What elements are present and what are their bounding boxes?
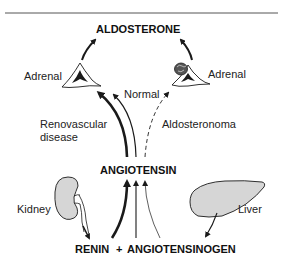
adrenal-left-label: Adrenal	[24, 70, 62, 82]
arrow-left-adrenal-to-aldosterone	[82, 40, 95, 60]
kidney-label: Kidney	[17, 203, 51, 215]
angiotensinogen-label: ANGIOTENSINOGEN	[127, 243, 236, 255]
arrow-right-adrenal-to-aldosterone	[181, 40, 192, 60]
arrow-renin-to-angiotensin-thick	[112, 182, 127, 238]
aldosteronoma-label: Aldosteronoma	[162, 118, 236, 130]
kidney-icon	[55, 177, 89, 238]
plus-sign: +	[116, 243, 122, 255]
renovascular-label-line1: Renovascular	[40, 118, 107, 130]
angiotensin-label: ANGIOTENSIN	[100, 164, 176, 176]
liver-label: Liver	[238, 203, 262, 215]
aldosterone-label: ALDOSTERONE	[96, 23, 180, 35]
adrenal-right-label: Adrenal	[208, 68, 246, 80]
arrow-normal-pathway	[114, 95, 136, 157]
adrenal-gland-icon	[62, 63, 101, 88]
adrenal-gland-with-tumor-icon	[172, 63, 210, 86]
normal-pathway-label: Normal	[124, 88, 159, 100]
renovascular-label-line2: disease	[40, 131, 78, 143]
renin-label: RENIN	[75, 243, 109, 255]
arrow-renin-to-angiotensin-thin	[145, 182, 160, 238]
